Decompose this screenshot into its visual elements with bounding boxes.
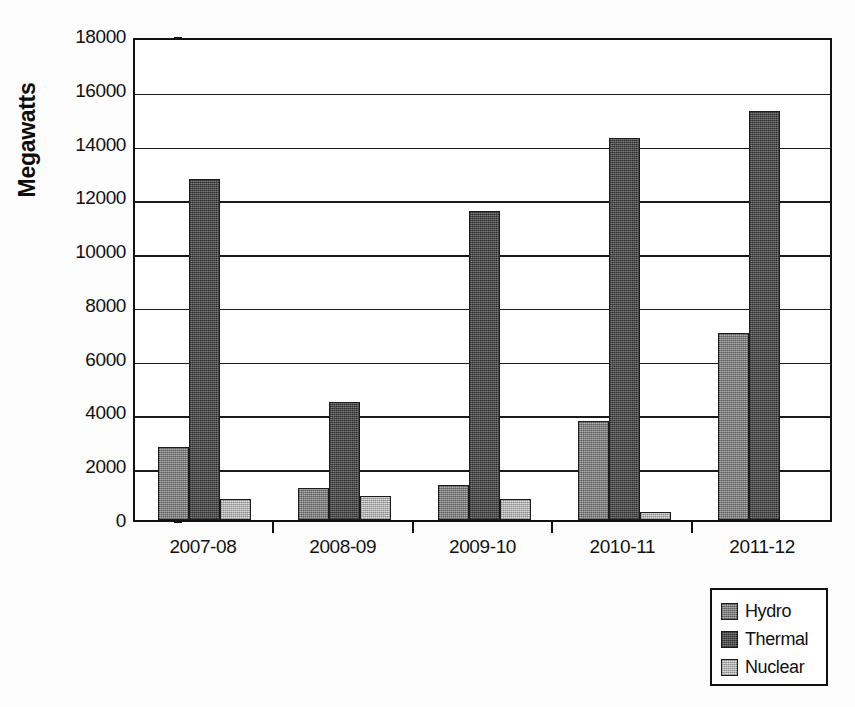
x-tick-label-2007-08: 2007-08 [133, 536, 273, 558]
legend-item-thermal[interactable]: Thermal [721, 625, 826, 653]
legend-label: Thermal [745, 629, 808, 650]
x-tick-label-2008-09: 2008-09 [273, 536, 413, 558]
y-tick-label: 14000 [52, 134, 126, 156]
bar-groups [135, 40, 830, 520]
y-axis-tick-labels: 0200040006000800010000120001400016000180… [48, 0, 126, 707]
y-tick-label: 18000 [52, 26, 126, 48]
legend-item-nuclear[interactable]: Nuclear [721, 653, 826, 681]
legend-label: Hydro [745, 601, 791, 622]
x-tick-label-2009-10: 2009-10 [413, 536, 553, 558]
x-tick-mark [412, 522, 414, 533]
bar-hydro-2008-09 [298, 488, 329, 520]
x-tick-mark [551, 522, 553, 533]
bar-hydro-2011-12 [718, 333, 749, 520]
legend-label: Nuclear [745, 657, 804, 678]
chart-page: Megawatts 020004000600080001000012000140… [0, 0, 855, 707]
bar-nuclear-2007-08 [220, 499, 251, 521]
legend: HydroThermalNuclear [710, 588, 828, 686]
y-tick-label: 6000 [52, 349, 126, 371]
x-tick-mark [691, 522, 693, 533]
y-tick-label: 4000 [52, 402, 126, 424]
legend-swatch-nuclear-icon [721, 659, 738, 676]
x-tick-label-2010-11: 2010-11 [552, 536, 692, 558]
y-tick-label: 12000 [52, 187, 126, 209]
legend-swatch-hydro-icon [721, 603, 738, 620]
legend-swatch-thermal-icon [721, 631, 738, 648]
plot-area [133, 38, 832, 522]
y-tick-label: 2000 [52, 456, 126, 478]
x-tick-mark [272, 522, 274, 533]
y-tick-label: 8000 [52, 295, 126, 317]
bar-nuclear-2009-10 [500, 499, 531, 521]
bar-thermal-2010-11 [609, 138, 640, 520]
y-tick-label: 16000 [52, 80, 126, 102]
bar-thermal-2009-10 [469, 211, 500, 520]
bar-thermal-2011-12 [749, 111, 780, 520]
bar-nuclear-2010-11 [640, 512, 671, 520]
bar-nuclear-2008-09 [360, 496, 391, 520]
bar-thermal-2007-08 [189, 179, 220, 520]
legend-item-hydro[interactable]: Hydro [721, 597, 826, 625]
bar-thermal-2008-09 [329, 402, 360, 520]
bar-hydro-2009-10 [438, 485, 469, 520]
x-tick-label-2011-12: 2011-12 [692, 536, 832, 558]
bar-hydro-2007-08 [158, 447, 189, 520]
bar-hydro-2010-11 [578, 421, 609, 520]
y-tick-label: 0 [52, 510, 126, 532]
y-tick-label: 10000 [52, 241, 126, 263]
